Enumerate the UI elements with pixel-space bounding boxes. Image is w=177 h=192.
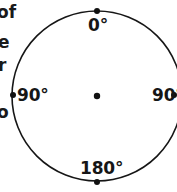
bearing-circle-figure: 0° 180° 90° 90° of e r o bbox=[0, 0, 177, 192]
center-dot bbox=[94, 93, 100, 99]
marker-dot-top bbox=[94, 8, 100, 14]
edge-text-fragment: r bbox=[0, 57, 6, 74]
edge-text-fragment: of bbox=[0, 4, 16, 21]
edge-text-fragment: o bbox=[0, 104, 9, 121]
edge-text-fragment: e bbox=[0, 34, 10, 51]
marker-dot-left bbox=[10, 92, 16, 98]
label-zero-degrees: 0° bbox=[88, 17, 108, 34]
marker-dot-bottom bbox=[94, 179, 100, 185]
label-ninety-degrees-right: 90° bbox=[152, 87, 177, 104]
label-one-eighty-degrees: 180° bbox=[80, 160, 123, 177]
label-ninety-degrees-left: 90° bbox=[17, 87, 49, 104]
